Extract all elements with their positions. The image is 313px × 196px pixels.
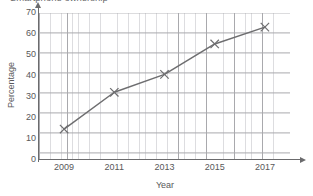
data-point-marker-x-icon [160,70,168,78]
data-point-marker-x-icon [261,23,269,31]
data-series-layer [0,0,313,196]
data-point-marker-x-icon [110,88,118,96]
line-chart: Smartphone ownership 010203040506070 200… [0,0,313,196]
series-line [64,27,265,129]
data-point-marker-x-icon [211,40,219,48]
series-markers [60,23,269,133]
data-point-marker-x-icon [60,125,68,133]
